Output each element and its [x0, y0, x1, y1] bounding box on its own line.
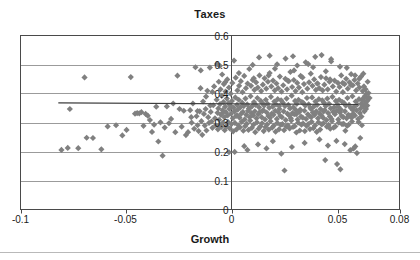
- x-axis-ticks: [22, 210, 401, 214]
- data-point: [267, 53, 273, 59]
- data-point: [246, 66, 252, 72]
- data-point: [268, 94, 274, 100]
- data-point: [151, 122, 157, 128]
- data-point: [219, 71, 225, 77]
- data-point: [308, 71, 314, 77]
- data-point: [164, 103, 170, 109]
- data-point: [334, 161, 340, 167]
- data-point: [281, 167, 287, 173]
- data-point: [75, 145, 81, 151]
- data-point: [333, 138, 339, 144]
- x-tick-label: -0.05: [114, 214, 137, 225]
- data-point: [241, 73, 247, 79]
- data-point: [330, 83, 336, 89]
- plot-area: [0, 0, 420, 260]
- data-point: [105, 123, 111, 129]
- trendline: [58, 103, 358, 105]
- data-point: [255, 141, 261, 147]
- data-point: [304, 86, 310, 92]
- data-point: [149, 129, 155, 135]
- data-point: [256, 72, 262, 78]
- bottom-separator-rule: [0, 252, 420, 253]
- data-point: [203, 127, 209, 133]
- data-point: [153, 104, 159, 110]
- data-point: [162, 124, 168, 130]
- data-point: [289, 144, 295, 150]
- data-point: [65, 145, 71, 151]
- y-tick-label: 0.2: [215, 146, 229, 157]
- x-tick-label: -0.1: [12, 214, 29, 225]
- data-point: [208, 109, 214, 115]
- data-point: [189, 120, 195, 126]
- data-point: [278, 151, 284, 157]
- data-point: [229, 80, 235, 86]
- data-point: [123, 127, 129, 133]
- data-point: [187, 107, 193, 113]
- data-point: [342, 141, 348, 147]
- data-point: [174, 73, 180, 79]
- data-point: [260, 82, 266, 88]
- data-point: [318, 74, 324, 80]
- data-point: [323, 68, 329, 74]
- y-tick-label: 0.5: [215, 59, 229, 70]
- x-tick-label: 0.08: [390, 214, 409, 225]
- data-point: [284, 95, 290, 101]
- data-point: [239, 89, 245, 95]
- y-tick-label: 0.6: [215, 30, 229, 41]
- data-point: [256, 54, 262, 60]
- data-point: [299, 89, 305, 95]
- data-point: [301, 81, 307, 87]
- data-point: [322, 157, 328, 163]
- data-point: [324, 95, 330, 101]
- data-point: [232, 149, 238, 155]
- data-point: [84, 135, 90, 141]
- data-point: [290, 53, 296, 59]
- data-point: [197, 85, 203, 91]
- data-point: [325, 142, 331, 148]
- data-point: [282, 55, 288, 61]
- data-point: [250, 62, 256, 68]
- data-point: [204, 88, 210, 94]
- data-point: [188, 114, 194, 120]
- y-tick-label: 0.4: [215, 88, 229, 99]
- data-point: [294, 62, 300, 68]
- data-point: [203, 106, 209, 112]
- data-point: [172, 129, 178, 135]
- data-point: [236, 70, 242, 76]
- data-point: [263, 145, 269, 151]
- data-point: [90, 135, 96, 141]
- data-point: [325, 86, 331, 92]
- data-point: [337, 64, 343, 70]
- data-point: [319, 52, 325, 58]
- data-point: [354, 150, 360, 156]
- data-point: [179, 124, 185, 130]
- data-point: [340, 89, 346, 95]
- data-point: [312, 54, 318, 60]
- data-point: [357, 135, 363, 141]
- x-tick-label: 0.05: [328, 214, 347, 225]
- data-point: [160, 153, 166, 159]
- data-point: [203, 93, 209, 99]
- data-point: [304, 95, 310, 101]
- y-tick-label: 0: [223, 204, 229, 215]
- data-point: [157, 119, 163, 125]
- data-point: [302, 140, 308, 146]
- data-point: [316, 136, 322, 142]
- x-tick-label: 0: [229, 214, 235, 225]
- data-point: [81, 74, 87, 80]
- data-point: [128, 74, 134, 80]
- data-point: [321, 82, 327, 88]
- data-point: [119, 132, 125, 138]
- data-point: [98, 146, 104, 152]
- data-point: [155, 138, 161, 144]
- data-point: [198, 67, 204, 73]
- data-point: [329, 94, 335, 100]
- data-point: [280, 82, 286, 88]
- data-point: [277, 73, 283, 79]
- data-point: [233, 75, 239, 81]
- data-point: [193, 113, 199, 119]
- scatter-chart: Taxes 00.10.20.30.40.50.6 -0.1-0.0500.05…: [0, 0, 420, 260]
- data-point: [67, 106, 73, 112]
- data-point: [338, 72, 344, 78]
- x-axis-title: Growth: [0, 233, 420, 245]
